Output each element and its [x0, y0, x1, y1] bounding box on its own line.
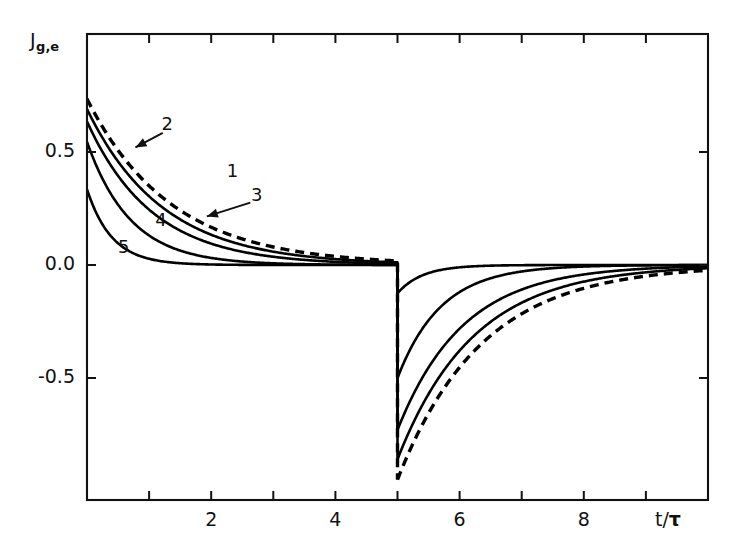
x-axis-label: t/τ	[655, 508, 681, 530]
arrowhead-3	[207, 209, 219, 218]
x-tick-label: 4	[315, 508, 355, 530]
y-tick-label: -0.5	[5, 365, 75, 387]
curve-label-3: 3	[251, 184, 262, 205]
curve-label-4: 4	[155, 209, 166, 230]
curve-4	[87, 142, 708, 378]
x-tick-label: 8	[564, 508, 604, 530]
x-tick-label: 2	[191, 508, 231, 530]
curve-label-5: 5	[118, 236, 129, 257]
curve-5	[87, 189, 708, 293]
curve-label-2: 2	[161, 113, 172, 134]
curve-label-1: 1	[227, 160, 238, 181]
chart-canvas	[0, 0, 736, 555]
y-tick-label: 0.5	[5, 139, 75, 161]
y-axis-label-sub: g,e	[36, 39, 59, 54]
y-tick-label: 0.0	[5, 252, 75, 274]
x-tick-label: 6	[440, 508, 480, 530]
figure-container: Jg,e t/τ 0.50.0-0.5 2468 12345	[0, 0, 736, 555]
x-axis-label-main: t/	[655, 508, 669, 530]
y-axis-label: Jg,e	[30, 29, 59, 54]
curves-layer	[87, 99, 708, 480]
tau-symbol: τ	[669, 508, 681, 530]
